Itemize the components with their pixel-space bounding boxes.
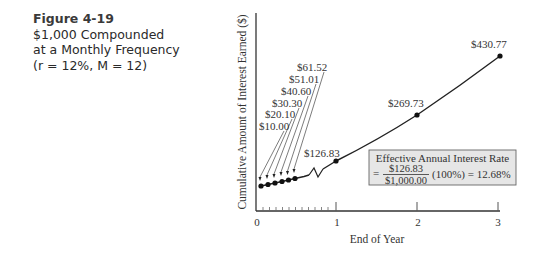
callout-equals: = (373, 167, 379, 179)
axis-break-icon (309, 168, 323, 177)
point-month-2 (265, 182, 270, 187)
callout-denominator: $1,000.00 (385, 175, 427, 186)
chart: 0 1 2 3 End of Year Cumulative Amount of… (0, 0, 538, 259)
point-year-2 (414, 112, 419, 117)
label-month-1: $10.00 (259, 120, 290, 132)
x-axis-label: End of Year (350, 233, 405, 245)
label-year-1: $126.83 (304, 147, 340, 159)
point-year-3 (497, 53, 502, 58)
label-month-4: $40.60 (281, 85, 312, 97)
point-month-1 (258, 183, 263, 188)
label-year-2: $269.73 (388, 97, 424, 109)
label-month-5: $51.01 (289, 73, 319, 85)
callout-result: (100%) = 12.68% (432, 168, 511, 181)
major-ticks (336, 202, 498, 211)
xtick-2: 2 (415, 216, 421, 228)
effective-rate-callout: Effective Annual Interest Rate = $126.83… (369, 150, 516, 186)
xtick-3: 3 (495, 216, 501, 228)
point-month-4 (279, 179, 284, 184)
label-month-6: $61.52 (297, 61, 327, 73)
xtick-1: 1 (334, 216, 340, 228)
callout-numerator: $126.83 (389, 163, 423, 174)
label-month-2: $20.10 (265, 108, 296, 120)
point-month-6 (292, 176, 297, 181)
label-month-3: $30.30 (272, 97, 303, 109)
xtick-0: 0 (254, 216, 260, 228)
point-year-1 (333, 158, 338, 163)
point-month-3 (272, 180, 277, 185)
label-year-3: $430.77 (471, 38, 507, 50)
point-month-5 (286, 177, 291, 182)
y-axis-label: Cumulative Amount of Interest Earned ($) (236, 14, 249, 209)
